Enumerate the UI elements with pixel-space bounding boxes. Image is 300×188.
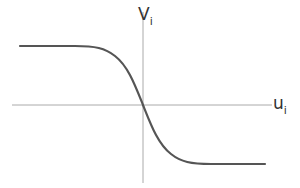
x-label-subscript: i: [284, 104, 287, 117]
sigmoid-diagram: [0, 0, 300, 188]
y-label-subscript: i: [150, 15, 153, 28]
y-axis-label: Vi: [138, 6, 153, 27]
x-axis-label: ui: [273, 95, 287, 116]
y-label-text: V: [138, 4, 150, 24]
x-label-text: u: [273, 93, 284, 113]
